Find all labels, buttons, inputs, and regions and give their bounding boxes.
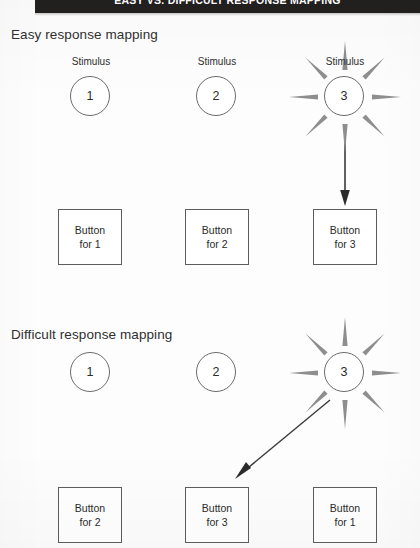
button-label-line1: Button — [330, 223, 360, 237]
section-heading-difficult: Difficult response mapping — [11, 327, 172, 342]
stimulus-label-easy-2: Stimulus — [198, 56, 236, 67]
response-button-easy-3[interactable]: Button for 3 — [313, 209, 377, 265]
button-label-line2: for 1 — [79, 237, 100, 251]
stimulus-node-difficult-3: 3 — [324, 352, 366, 394]
button-label-line1: Button — [330, 501, 360, 515]
stimulus-node-difficult-1: 1 — [70, 352, 112, 394]
button-label-line1: Button — [202, 501, 232, 515]
stimulus-node-easy-2: Stimulus 2 — [196, 76, 238, 118]
button-label-line2: for 3 — [334, 237, 355, 251]
stimulus-circle-difficult-1: 1 — [70, 352, 110, 392]
response-button-easy-2[interactable]: Button for 2 — [185, 209, 249, 265]
button-label-line1: Button — [202, 223, 232, 237]
response-button-difficult-1[interactable]: Button for 2 — [58, 487, 122, 543]
response-button-difficult-2[interactable]: Button for 3 — [185, 487, 249, 543]
stimulus-circle-difficult-2: 2 — [196, 352, 236, 392]
button-label-line2: for 2 — [206, 237, 227, 251]
stimulus-label-easy-3: Stimulus — [326, 56, 364, 67]
section-heading-easy: Easy response mapping — [11, 27, 158, 42]
button-label-line2: for 2 — [79, 515, 100, 529]
button-label-line2: for 3 — [206, 515, 227, 529]
diagram-page: EASY VS. DIFFICULT RESPONSE MAPPING Easy… — [0, 0, 420, 548]
stimulus-circle-easy-1: 1 — [70, 76, 110, 116]
button-label-line2: for 1 — [334, 515, 355, 529]
stimulus-circle-easy-2: 2 — [196, 76, 236, 116]
page-title: EASY VS. DIFFICULT RESPONSE MAPPING — [35, 0, 420, 7]
response-button-difficult-3[interactable]: Button for 1 — [313, 487, 377, 543]
title-banner: EASY VS. DIFFICULT RESPONSE MAPPING — [35, 0, 420, 13]
stimulus-node-easy-1: Stimulus 1 — [70, 76, 112, 118]
stimulus-node-easy-3: Stimulus 3 — [324, 76, 366, 118]
starburst-icon-difficult-3 — [289, 317, 401, 429]
button-label-line1: Button — [75, 223, 105, 237]
stimulus-node-difficult-2: 2 — [196, 352, 238, 394]
banner-shadow — [35, 13, 420, 16]
response-button-easy-1[interactable]: Button for 1 — [58, 209, 122, 265]
stimulus-label-easy-1: Stimulus — [72, 56, 110, 67]
button-label-line1: Button — [75, 501, 105, 515]
